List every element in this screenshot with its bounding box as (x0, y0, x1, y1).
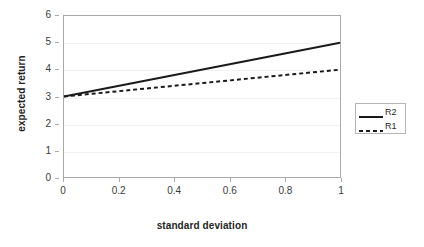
x-tick-mark (119, 178, 120, 182)
y-tick-mark (55, 124, 59, 125)
y-tick-label: 2 (45, 119, 51, 129)
x-tick-mark (285, 178, 286, 182)
x-tick-label: 1 (338, 186, 344, 196)
y-tick-label: 1 (45, 146, 51, 156)
x-tick-mark (174, 178, 175, 182)
plot-area (63, 15, 341, 178)
y-axis: 0123456 (0, 0, 63, 247)
chart-legend: R2R1 (355, 103, 406, 134)
x-axis: 00.20.40.60.81 (0, 178, 424, 208)
series-line-r1 (64, 70, 340, 97)
x-tick-mark (341, 178, 342, 182)
series-line-r2 (64, 43, 340, 97)
y-tick-label: 5 (45, 37, 51, 47)
x-tick-label: 0.4 (167, 186, 181, 196)
y-tick-label: 3 (45, 92, 51, 102)
legend-label: R2 (385, 108, 397, 117)
x-tick-label: 0.8 (278, 186, 292, 196)
y-axis-title: expected return (16, 29, 27, 159)
series-layer (64, 16, 340, 177)
x-axis-title: standard deviation (0, 220, 404, 231)
legend-swatch-solid-icon (358, 108, 384, 118)
y-tick-mark (55, 42, 59, 43)
chart-container: 0123456 00.20.40.60.81 standard deviatio… (0, 0, 424, 247)
y-tick-mark (55, 97, 59, 98)
legend-label: R1 (385, 122, 397, 131)
legend-swatch-dashed-icon (358, 122, 384, 132)
y-tick-label: 4 (45, 64, 51, 74)
x-tick-label: 0.6 (223, 186, 237, 196)
legend-item-r2[interactable]: R2 (356, 106, 405, 119)
x-tick-mark (63, 178, 64, 182)
y-tick-mark (55, 151, 59, 152)
x-tick-mark (230, 178, 231, 182)
y-tick-label: 6 (45, 10, 51, 20)
legend-item-r1[interactable]: R1 (356, 120, 405, 133)
y-tick-mark (55, 69, 59, 70)
x-tick-label: 0.2 (112, 186, 126, 196)
x-tick-label: 0 (60, 186, 66, 196)
y-tick-mark (55, 15, 59, 16)
